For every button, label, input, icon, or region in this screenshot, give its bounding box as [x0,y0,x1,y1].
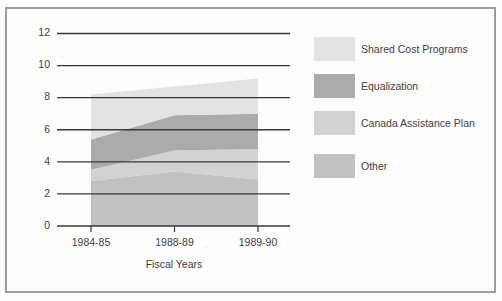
legend-swatch-equalization [314,74,355,98]
x-tick-label: 1989-90 [239,236,278,248]
legend-swatch-shared-cost-programs [314,37,355,61]
y-tick-label: 10 [38,58,50,70]
legend: Shared Cost Programs Equalization Canada… [314,37,489,182]
y-tick-label: 6 [44,123,50,135]
y-tick-label: 12 [38,26,50,38]
legend-label: Other [361,160,387,172]
area-other [91,171,258,226]
y-tick-label: 8 [44,90,50,102]
x-tick-label: 1988-89 [155,236,194,248]
y-tick-label: 0 [44,219,50,231]
legend-label: Shared Cost Programs [361,43,468,55]
legend-label: Equalization [361,80,418,92]
x-axis-title: Fiscal Years [146,258,203,270]
legend-label: Canada Assistance Plan [361,117,475,129]
legend-item-canada-assistance-plan: Canada Assistance Plan [314,111,475,135]
y-tick-label: 2 [44,187,50,199]
legend-swatch-canada-assistance-plan [314,111,355,135]
legend-item-equalization: Equalization [314,74,418,98]
legend-item-other: Other [314,154,387,178]
legend-swatch-other [314,154,355,178]
x-tick-label: 1984-85 [72,236,111,248]
y-tick-label: 4 [44,155,50,167]
legend-item-shared-cost-programs: Shared Cost Programs [314,37,468,61]
